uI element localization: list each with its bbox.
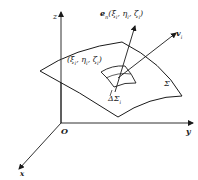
- normal-vector-label: en(ξi, ηi, ζi): [100, 9, 143, 20]
- origin-label: O: [61, 127, 68, 135]
- velocity-vector-label: vi: [176, 29, 182, 40]
- diagram-drawing: [0, 0, 198, 180]
- x-axis-label: x: [20, 170, 24, 177]
- z-axis-label: z: [53, 13, 57, 21]
- x-axis: [19, 123, 61, 169]
- point-label: (ξi, ηi, ζi): [67, 56, 102, 66]
- y-axis-label: y: [186, 127, 191, 135]
- patch-label: ΔΣi: [108, 95, 121, 105]
- surface-integral-diagram: z O y x Σ ΔΣi (ξi, ηi, ζi) en(ξi, ηi, ζi…: [0, 0, 198, 180]
- surface-label: Σ: [164, 80, 170, 88]
